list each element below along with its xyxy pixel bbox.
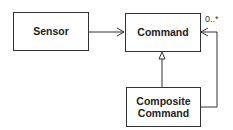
composite-command-association-line	[200, 32, 217, 107]
command-class-box: Command	[125, 13, 201, 52]
composite-label-line1: Composite	[136, 95, 190, 107]
composite-command-class-box: Composite Command	[126, 87, 201, 127]
multiplicity-label: 0..*	[205, 14, 219, 24]
sensor-label: Sensor	[33, 25, 69, 37]
command-label: Command	[137, 26, 188, 38]
composite-label-line2: Command	[138, 107, 189, 119]
sensor-class-box: Sensor	[13, 12, 89, 51]
hollow-triangle-icon	[159, 52, 165, 59]
